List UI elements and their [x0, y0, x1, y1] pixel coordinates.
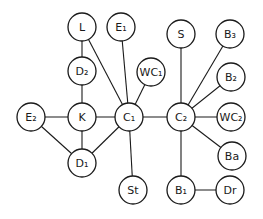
- node-b3: B₃: [216, 20, 244, 48]
- node-label: L: [79, 21, 86, 34]
- node-label: C₂: [175, 111, 187, 124]
- node-d1: D₁: [68, 149, 96, 177]
- node-label: K: [78, 111, 86, 124]
- node-label: B₃: [224, 28, 236, 41]
- node-label: St: [127, 184, 139, 197]
- node-b2: B₂: [217, 63, 245, 91]
- node-label: B₂: [225, 71, 237, 84]
- node-label: E₂: [25, 111, 36, 124]
- node-c1: C₁: [115, 103, 143, 131]
- node-label: Dr: [224, 184, 237, 197]
- node-e2: E₂: [17, 103, 45, 131]
- node-label: D₁: [76, 157, 89, 170]
- node-label: WC₁: [140, 66, 163, 79]
- node-wc2: WC₂: [217, 103, 245, 131]
- node-l: L: [68, 13, 96, 41]
- node-ba: Ba: [218, 142, 246, 170]
- node-c2: C₂: [167, 103, 195, 131]
- node-k: K: [68, 103, 96, 131]
- node-label: C₁: [123, 111, 135, 124]
- nodes-layer: LE₁D₂WC₁SB₃B₂E₂KC₁C₂WC₂BaD₁StB₁Dr: [17, 13, 246, 204]
- node-s: S: [167, 20, 195, 48]
- node-label: D₂: [76, 65, 89, 78]
- node-label: B₁: [175, 184, 187, 197]
- node-st: St: [119, 176, 147, 204]
- node-label: S: [178, 28, 185, 41]
- node-wc1: WC₁: [137, 58, 165, 86]
- node-e1: E₁: [107, 13, 135, 41]
- node-dr: Dr: [216, 176, 244, 204]
- node-label: E₁: [115, 21, 126, 34]
- node-label: WC₂: [220, 111, 243, 124]
- node-label: Ba: [225, 150, 239, 163]
- graph-diagram: LE₁D₂WC₁SB₃B₂E₂KC₁C₂WC₂BaD₁StB₁Dr: [0, 0, 263, 219]
- node-d2: D₂: [68, 57, 96, 85]
- node-b1: B₁: [167, 176, 195, 204]
